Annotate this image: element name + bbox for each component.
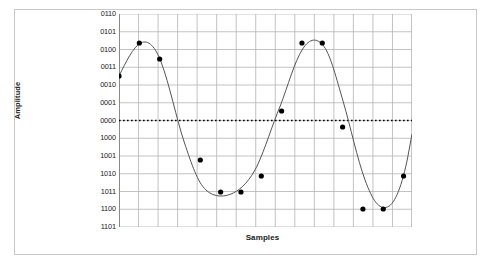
y-tick-label: 0010: [90, 81, 116, 88]
data-point: [299, 40, 304, 45]
y-tick-label: 0110: [90, 10, 116, 17]
y-tick-label: 1000: [90, 135, 116, 142]
y-tick-label: 0011: [90, 64, 116, 71]
y-tick-label: 0100: [90, 46, 116, 53]
waveform-curve: [119, 40, 412, 207]
y-tick-label: 0000: [90, 117, 116, 124]
y-axis-tick-labels: 0110010101000011001000010000100010011010…: [90, 14, 116, 227]
y-tick-label: 1001: [90, 152, 116, 159]
y-tick-label: 1101: [90, 223, 116, 230]
x-axis-label: Samples: [110, 233, 415, 242]
y-tick-label: 1011: [90, 188, 116, 195]
data-point: [198, 157, 203, 162]
data-point: [137, 40, 142, 45]
data-point: [381, 206, 386, 211]
data-point: [157, 56, 162, 61]
y-axis-label: Amplitude: [13, 56, 22, 146]
y-tick-label: 1010: [90, 170, 116, 177]
data-point: [238, 189, 243, 194]
waveform-plot: [119, 14, 412, 227]
figure-canvas: Amplitude Samples 0110010101000011001000…: [0, 0, 491, 265]
y-tick-label: 1100: [90, 206, 116, 213]
y-tick-label: 0101: [90, 28, 116, 35]
data-point: [320, 40, 325, 45]
y-tick-label: 0001: [90, 99, 116, 106]
data-point: [401, 173, 406, 178]
data-point: [259, 173, 264, 178]
data-point: [119, 73, 122, 78]
data-point: [340, 124, 345, 129]
data-point: [360, 206, 365, 211]
plot-area: [119, 14, 412, 227]
data-point: [218, 189, 223, 194]
data-point: [279, 108, 284, 113]
